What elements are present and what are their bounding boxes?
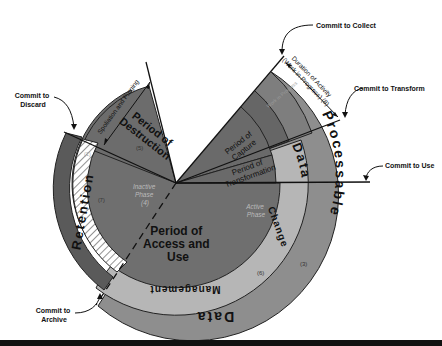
svg-text:Data: Data bbox=[196, 309, 234, 325]
commit-to-collect: Commit to Collect bbox=[316, 22, 377, 29]
commit-to-transform: Commit to Transform bbox=[354, 85, 425, 92]
access-use-label-1: Period of bbox=[150, 224, 203, 238]
processable-number: (3) bbox=[300, 261, 307, 267]
access-use-label-3: Use bbox=[167, 250, 189, 264]
commit-to-archive: Commit to Archive bbox=[36, 307, 73, 323]
lifecycle-diagram: Period of Access and Use Period of Destr… bbox=[0, 0, 442, 346]
access-use-label-2: Access and bbox=[143, 237, 210, 251]
data-change-number: (6) bbox=[257, 270, 264, 276]
retention-number: (1) bbox=[84, 151, 91, 157]
commit-to-use: Commit to Use bbox=[385, 162, 435, 169]
data-bottom-label: Data bbox=[196, 309, 234, 325]
svg-text:Management: Management bbox=[149, 284, 220, 295]
management-label: Management bbox=[149, 284, 220, 295]
active-phase-label: Active Phase bbox=[245, 203, 266, 218]
bottom-border-bar bbox=[0, 340, 442, 346]
destruction-number: (5) bbox=[136, 145, 143, 151]
commit-to-discard: Commit to Discard bbox=[15, 92, 52, 108]
hatched-ring-number: (7) bbox=[98, 197, 105, 203]
